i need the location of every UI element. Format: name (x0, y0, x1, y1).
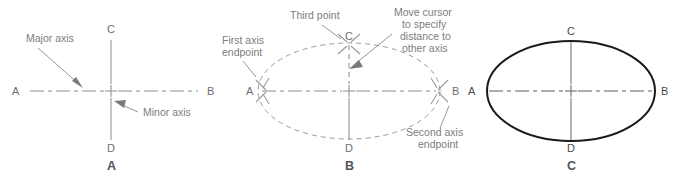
panel-a-caption: A (107, 159, 116, 173)
panel-b-label-a: A (246, 85, 254, 97)
panel-b-annotation-first-axis-endpoint-line1: First axis (222, 34, 264, 46)
panel-a-label-b: B (207, 85, 214, 97)
panel-c-label-c: C (567, 25, 575, 37)
panel-b-annotation-first-axis-endpoint-line2: endpoint (222, 46, 262, 58)
panel-b-annotation-move-cursor-line1: Move cursor (394, 6, 452, 18)
panel-b-annotation-move-cursor-line3: distance to (400, 30, 451, 42)
panel-b-label-c: C (345, 30, 353, 42)
panel-b-caption: B (345, 159, 354, 173)
panel-b-annotation-second-axis-endpoint-line1: Second axis (406, 126, 463, 138)
panel-b-label-b: B (452, 85, 459, 97)
panel-a-annotation-major-axis: Major axis (26, 32, 74, 44)
panel-c-label-d: D (567, 142, 575, 154)
panel-a-label-a: A (12, 85, 20, 97)
panel-b-annotation-move-cursor-line4: other axis (402, 42, 448, 54)
panel-c-label-b: B (661, 85, 668, 97)
panel-b-annotation-move-cursor-line2: to specify (402, 18, 447, 30)
panel-a-annotation-minor-axis: Minor axis (143, 106, 191, 118)
panel-a-label-d: D (107, 142, 115, 154)
panel-b-label-d: D (345, 142, 353, 154)
ellipse-construction-figure: A B C D Major axis Minor axis A (0, 0, 678, 182)
panel-c-caption: C (567, 159, 576, 173)
panel-b-annotation-third-point: Third point (290, 9, 340, 21)
panel-a-label-c: C (107, 23, 115, 35)
figure-canvas: A B C D Major axis Minor axis A (0, 0, 678, 182)
panel-c-label-a: A (468, 85, 476, 97)
panel-b-annotation-second-axis-endpoint-line2: endpoint (418, 138, 458, 150)
